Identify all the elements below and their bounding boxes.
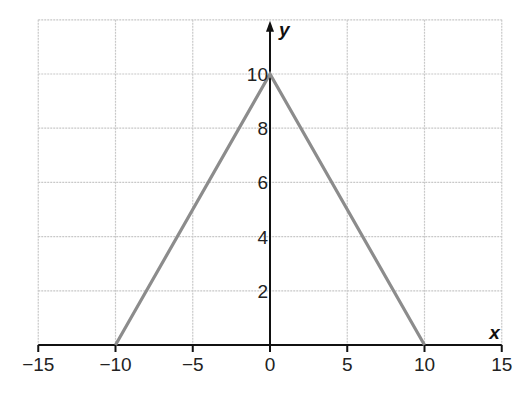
y-axis-label: y	[278, 19, 291, 40]
x-tick-label: 15	[491, 354, 512, 375]
y-tick-label: 4	[257, 227, 268, 248]
axes	[38, 21, 502, 352]
y-axis-arrow-icon	[266, 21, 274, 32]
x-tick-label: −10	[99, 354, 131, 375]
y-tick-label: 6	[257, 172, 268, 193]
x-tick-label: −5	[182, 354, 204, 375]
x-tick-label: 10	[414, 354, 435, 375]
x-tick-label: 5	[342, 354, 353, 375]
x-axis-label: x	[488, 322, 501, 343]
tick-labels: −15−10−5051015246810xy	[22, 19, 512, 375]
y-tick-label: 8	[257, 118, 268, 139]
y-tick-label: 10	[247, 64, 268, 85]
x-tick-label: −15	[22, 354, 54, 375]
chart-canvas: −15−10−5051015246810xy	[0, 0, 526, 404]
x-tick-label: 0	[265, 354, 276, 375]
y-tick-label: 2	[257, 281, 268, 302]
